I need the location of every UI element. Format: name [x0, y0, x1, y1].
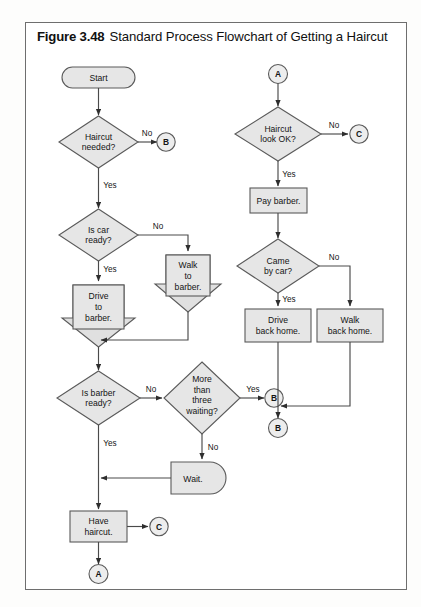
node-conn-c-right-label: C	[356, 129, 362, 139]
node-drive-back-home[interactable]: Drive back home.	[245, 309, 311, 342]
edge-label-is-car-ready-yes: Yes	[103, 265, 116, 274]
node-more-than-three-label-3: three	[192, 395, 212, 405]
edge-label-came-by-car-no: No	[329, 253, 340, 262]
node-haircut-needed-label-1: Haircut	[85, 132, 113, 142]
node-more-than-three[interactable]: More than three waiting?	[164, 362, 240, 434]
node-conn-b-mid-label: B	[271, 393, 277, 403]
node-conn-b-bottom-label: B	[275, 423, 281, 433]
node-haircut-needed[interactable]: Haircut needed?	[59, 116, 138, 168]
node-walk-back-home-label-1: Walk	[341, 315, 360, 325]
edge-label-haircut-needed-no: No	[142, 129, 153, 138]
node-drive-to-barber-label-3: barber.	[85, 313, 112, 323]
node-is-barber-ready-label-1: Is barber	[82, 388, 116, 398]
node-walk-to-barber-label-3: barber.	[175, 282, 202, 292]
node-haircut-needed-label-2: needed?	[82, 142, 116, 152]
node-walk-to-barber-label-1: Walk	[179, 260, 198, 270]
node-came-by-car-label-1: Came	[267, 256, 290, 266]
node-conn-b-mid[interactable]: B	[265, 389, 283, 407]
node-is-barber-ready-label-2: ready?	[85, 398, 111, 408]
node-haircut-look-ok[interactable]: Haircut look OK?	[235, 107, 321, 161]
edge-label-more-than-three-yes: Yes	[246, 385, 259, 394]
edge-is-car-ready-no	[138, 235, 188, 251]
node-more-than-three-label-1: More	[192, 374, 212, 384]
node-conn-c-right[interactable]: C	[350, 125, 368, 143]
node-have-haircut-label-1: Have	[88, 516, 108, 526]
edge-label-haircut-needed-yes: Yes	[103, 181, 116, 190]
node-drive-back-home-label-1: Drive	[268, 315, 288, 325]
edge-label-more-than-three-no: No	[208, 443, 219, 452]
node-drive-back-home-label-2: back home.	[256, 326, 300, 336]
node-haircut-look-ok-label-1: Haircut	[264, 124, 292, 134]
node-drive-to-barber[interactable]: Drive to barber.	[62, 285, 135, 347]
node-pay-barber-label: Pay barber.	[257, 196, 301, 206]
node-conn-a-top-label: A	[275, 69, 281, 79]
node-is-car-ready-label-2: ready?	[85, 235, 111, 245]
node-conn-a-top[interactable]: A	[269, 65, 288, 84]
edge-label-is-barber-ready-no: No	[146, 385, 157, 394]
node-conn-a-bottom[interactable]: A	[89, 565, 108, 584]
node-conn-b-bottom[interactable]: B	[269, 419, 288, 438]
flowchart-diagram: Start Haircut needed? No B Yes Is car re…	[25, 22, 407, 590]
node-conn-c-left[interactable]: C	[150, 517, 168, 535]
node-is-car-ready-label-1: Is car	[88, 225, 109, 235]
edge-label-is-barber-ready-yes: Yes	[103, 439, 116, 448]
node-is-car-ready[interactable]: Is car ready?	[59, 209, 138, 261]
node-wait-label: Wait.	[183, 474, 202, 484]
edge-label-haircut-look-ok-yes: Yes	[282, 170, 295, 179]
node-start-label: Start	[89, 73, 108, 83]
edge-label-haircut-look-ok-no: No	[329, 121, 340, 130]
node-walk-to-barber[interactable]: Walk to barber.	[155, 255, 221, 312]
node-have-haircut[interactable]: Have haircut.	[70, 511, 127, 542]
edge-label-is-car-ready-no: No	[153, 222, 164, 231]
edge-walk-back-home-merge	[281, 342, 350, 406]
node-pay-barber[interactable]: Pay barber.	[250, 188, 307, 213]
node-more-than-three-label-2: than	[194, 385, 211, 395]
node-is-barber-ready[interactable]: Is barber ready?	[57, 371, 140, 425]
node-walk-to-barber-label-2: to	[184, 271, 191, 281]
node-have-haircut-label-2: haircut.	[84, 527, 112, 537]
node-came-by-car-label-2: by car?	[264, 266, 292, 276]
node-wait[interactable]: Wait.	[171, 462, 226, 494]
node-conn-a-bottom-label: A	[95, 569, 101, 579]
node-walk-back-home[interactable]: Walk back home.	[317, 309, 383, 342]
node-drive-to-barber-label-2: to	[95, 302, 102, 312]
node-drive-to-barber-label-1: Drive	[88, 291, 108, 301]
node-walk-back-home-label-2: back home.	[328, 326, 372, 336]
edge-label-came-by-car-yes: Yes	[282, 295, 295, 304]
node-conn-c-left-label: C	[156, 522, 162, 532]
figure-root: Figure 3.48Standard Process Flowchart of…	[0, 0, 421, 607]
node-more-than-three-label-4: waiting?	[185, 406, 218, 416]
node-conn-b-top-label: B	[163, 137, 169, 147]
node-came-by-car[interactable]: Came by car?	[237, 239, 319, 293]
node-conn-b-top[interactable]: B	[157, 133, 175, 151]
node-haircut-look-ok-label-2: look OK?	[260, 134, 296, 144]
edge-came-by-car-no	[319, 266, 350, 306]
node-start[interactable]: Start	[62, 67, 135, 88]
